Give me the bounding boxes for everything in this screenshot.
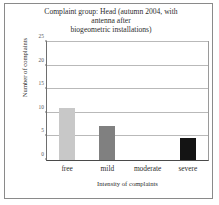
- gridline: [47, 65, 208, 66]
- chart-figure: Complaint group: Head (autumn 2004, with…: [4, 3, 213, 199]
- gridline: [47, 41, 208, 42]
- bar-mild: [99, 126, 115, 160]
- chart-title-line-3: biogeometric installations): [21, 25, 201, 34]
- chart-title-line-2: antenna after: [21, 16, 201, 25]
- chart-title-line-1: Complaint group: Head (autumn 2004, with: [21, 7, 201, 16]
- y-tick-mark: [45, 88, 47, 89]
- y-tick-label: 5: [41, 127, 44, 133]
- x-tick-label-severe: severe: [178, 164, 197, 173]
- bar-severe: [180, 138, 196, 160]
- bar-free: [59, 108, 75, 160]
- y-tick-mark: [45, 135, 47, 136]
- y-tick-label: 20: [39, 57, 44, 63]
- y-tick-mark: [45, 41, 47, 42]
- x-tick-label-moderate: moderate: [134, 164, 162, 173]
- x-tick-label-mild: mild: [101, 164, 115, 173]
- y-tick-label: 25: [39, 33, 44, 39]
- chart-title: Complaint group: Head (autumn 2004, with…: [21, 7, 201, 35]
- gridline: [47, 88, 208, 89]
- plot-area: 0510152025freemildmoderatesevere: [46, 41, 209, 161]
- x-tick-label-free: free: [61, 164, 72, 173]
- y-tick-mark: [45, 111, 47, 112]
- y-axis-title: Number of complaints: [21, 13, 28, 123]
- y-tick-label: 15: [39, 80, 44, 86]
- y-tick-label: 10: [39, 104, 44, 110]
- y-tick-mark: [45, 159, 47, 160]
- y-tick-mark: [45, 64, 47, 65]
- x-axis-title: Intensity of complaints: [46, 180, 209, 187]
- y-tick-label: 0: [41, 151, 44, 157]
